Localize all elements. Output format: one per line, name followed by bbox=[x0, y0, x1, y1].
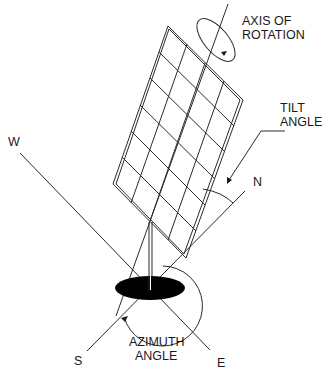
south-north-line bbox=[87, 191, 245, 351]
tilt-arrow-icon bbox=[227, 177, 232, 184]
label-west: W bbox=[8, 135, 20, 149]
label-azimuth-angle-2: ANGLE bbox=[135, 349, 177, 363]
rotation-ellipse bbox=[190, 12, 242, 67]
label-axis-of-rotation-1: AXIS OF bbox=[242, 14, 292, 28]
label-tilt-angle-2: ANGLE bbox=[280, 115, 322, 129]
label-south: S bbox=[74, 354, 82, 368]
label-tilt-angle-1: TILT bbox=[280, 101, 305, 115]
label-axis-of-rotation-2: ROTATION bbox=[242, 28, 305, 42]
tilt-leader-line bbox=[229, 131, 285, 180]
solar-orientation-diagram: AXIS OF ROTATION TILT ANGLE N W S E AZIM… bbox=[0, 0, 328, 373]
label-north: N bbox=[253, 175, 262, 189]
tilt-arc bbox=[203, 189, 233, 203]
rotation-axis-line bbox=[116, 4, 228, 316]
azimuth-arrow-icon bbox=[121, 316, 128, 322]
rotation-arrow-icon bbox=[221, 51, 227, 56]
label-azimuth-angle-1: AZIMUTH bbox=[129, 335, 185, 349]
label-east: E bbox=[217, 356, 225, 370]
